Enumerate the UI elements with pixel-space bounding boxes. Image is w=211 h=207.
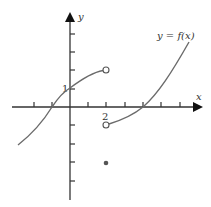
y-axis-label: y bbox=[77, 11, 84, 22]
x-ticks bbox=[34, 102, 180, 107]
left-branch-curve bbox=[18, 71, 103, 146]
graph: y x 1 2 y = f(x) bbox=[0, 0, 211, 207]
y-axis-arrow-icon bbox=[65, 12, 75, 22]
function-graph: y x 1 2 y = f(x) bbox=[0, 0, 211, 207]
x-axis-arrow-icon bbox=[193, 102, 203, 112]
x-tick-label-2: 2 bbox=[102, 111, 108, 122]
isolated-point bbox=[104, 161, 109, 166]
open-circle-upper bbox=[103, 67, 109, 73]
open-circle-lower bbox=[103, 122, 109, 128]
x-axis-label: x bbox=[196, 91, 202, 102]
y-tick-label-1: 1 bbox=[62, 83, 68, 94]
right-branch-curve bbox=[109, 42, 189, 124]
function-label: y = f(x) bbox=[156, 30, 195, 41]
